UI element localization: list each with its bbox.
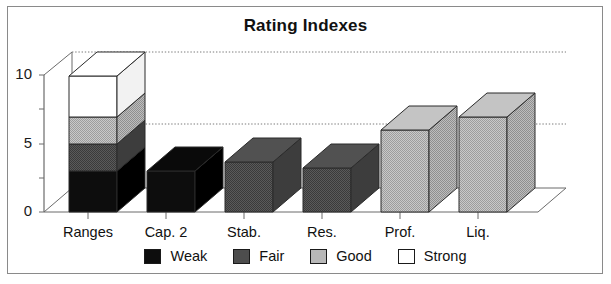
legend-item-weak[interactable]: Weak xyxy=(144,248,207,264)
legend-label-strong: Strong xyxy=(424,248,467,264)
chart-legend: Weak Fair Good Strong xyxy=(0,248,611,264)
bar-prof[interactable] xyxy=(381,106,457,212)
y-axis-ticks xyxy=(39,75,44,212)
legend-item-good[interactable]: Good xyxy=(310,248,371,264)
bar-ranges[interactable] xyxy=(69,52,145,212)
x-tick-label-ranges: Ranges xyxy=(48,224,128,240)
x-tick-label-cap-2: Cap. 2 xyxy=(126,224,206,240)
legend-label-weak: Weak xyxy=(170,248,207,264)
legend-item-strong[interactable]: Strong xyxy=(398,248,467,264)
x-tick-label-stab: Stab. xyxy=(204,224,284,240)
bar-stab[interactable] xyxy=(225,138,301,212)
legend-label-good: Good xyxy=(336,248,371,264)
y-tick-label-5: 5 xyxy=(6,134,32,151)
bar-cap-2[interactable] xyxy=(147,147,223,212)
legend-item-fair[interactable]: Fair xyxy=(233,248,284,264)
legend-swatch-strong xyxy=(398,249,415,264)
plot-area: .gridline { stroke:#7a7a7a; stroke-width… xyxy=(0,0,611,284)
x-tick-label-res: Res. xyxy=(282,224,362,240)
legend-swatch-weak xyxy=(144,249,161,264)
chart-container: Rating Indexes .gridline { stroke:#7a7a7… xyxy=(0,0,611,284)
x-tick-label-liq: Liq. xyxy=(438,224,518,240)
axis-3d-frame xyxy=(44,52,72,212)
x-tick-label-prof: Prof. xyxy=(360,224,440,240)
legend-swatch-fair xyxy=(233,249,250,264)
y-tick-label-10: 10 xyxy=(6,65,32,82)
x-axis-ticks xyxy=(88,212,478,219)
legend-swatch-good xyxy=(310,249,327,264)
y-tick-label-0: 0 xyxy=(6,202,32,219)
bar-liq[interactable] xyxy=(459,93,535,212)
bar-res[interactable] xyxy=(303,144,379,212)
legend-label-fair: Fair xyxy=(259,248,284,264)
